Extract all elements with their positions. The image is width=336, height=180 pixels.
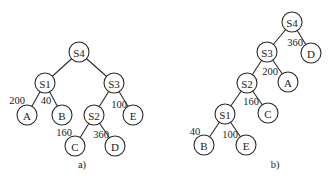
- node-label: E: [130, 110, 137, 122]
- node-label: C: [264, 108, 271, 120]
- edge-weight-label: 100: [111, 99, 127, 110]
- subfigure-caption-a: a): [78, 159, 87, 171]
- tree-node-a-d: D: [105, 136, 125, 156]
- node-label: S2: [241, 78, 253, 90]
- node-label: B: [58, 110, 65, 122]
- node-label: S1: [219, 109, 231, 121]
- captions-layer: a)b): [78, 159, 280, 171]
- tree-node-a-s2: S2: [84, 105, 104, 125]
- edge-weight-label: 200: [9, 95, 25, 106]
- node-label: A: [23, 110, 31, 122]
- node-label: S3: [261, 47, 273, 59]
- tree-node-b-s4: S4: [282, 12, 302, 32]
- tree-node-a-s4: S4: [69, 42, 89, 62]
- edge-weight-label: 160: [56, 127, 72, 138]
- tree-node-b-a: A: [278, 72, 298, 92]
- tree-node-a-c: C: [65, 136, 85, 156]
- node-label: A: [284, 77, 292, 89]
- tree-node-a-b: B: [52, 105, 72, 125]
- tree-node-a-s1: S1: [35, 73, 55, 93]
- tree-node-b-b: B: [194, 135, 214, 155]
- tree-node-a-a: A: [17, 105, 37, 125]
- node-label: S1: [39, 78, 51, 90]
- huffman-tree-diagram: 2004010016036036020016040100 S4S1S3ABS2E…: [0, 0, 336, 180]
- tree-node-b-s2: S2: [237, 73, 257, 93]
- node-label: C: [71, 141, 78, 153]
- node-label: S4: [73, 47, 85, 59]
- node-label: S2: [88, 110, 100, 122]
- tree-node-b-d: D: [301, 43, 321, 63]
- edge-weight-label: 360: [93, 129, 109, 140]
- tree-node-b-s3: S3: [257, 42, 277, 62]
- edge-weight-label: 360: [287, 37, 303, 48]
- tree-node-b-s1: S1: [215, 104, 235, 124]
- node-label: D: [111, 141, 119, 153]
- subfigure-caption-b: b): [271, 159, 280, 171]
- edge-weight-label: 200: [262, 66, 278, 77]
- node-label: B: [200, 140, 207, 152]
- tree-node-b-e: E: [236, 135, 256, 155]
- tree-node-a-e: E: [123, 105, 143, 125]
- tree-node-a-s3: S3: [104, 73, 124, 93]
- edge-weight-label: 100: [222, 129, 238, 140]
- node-label: D: [307, 48, 315, 60]
- edge-weight-label: 160: [243, 96, 259, 107]
- edge-weight-label: 40: [190, 126, 201, 137]
- node-label: S3: [108, 78, 120, 90]
- edge-weight-label: 40: [41, 95, 52, 106]
- node-label: S4: [286, 17, 298, 29]
- node-label: E: [243, 140, 250, 152]
- tree-node-b-c: C: [258, 103, 278, 123]
